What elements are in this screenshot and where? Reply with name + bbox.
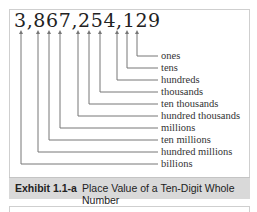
place-label-hundreds: hundreds	[161, 74, 200, 85]
place-label-tens: tens	[161, 62, 178, 73]
caption-title: Place Value of a Ten-Digit Whole Number	[82, 182, 250, 206]
place-label-billions: billions	[161, 158, 193, 169]
place-label-hundred-thousands: hundred thousands	[161, 110, 240, 121]
place-label-ten-millions: ten millions	[161, 134, 211, 145]
next-section-border	[9, 206, 250, 212]
exhibit-caption: Exhibit 1.1-a Place Value of a Ten-Digit…	[9, 177, 250, 199]
place-label-hundred-millions: hundred millions	[161, 146, 232, 157]
place-label-millions: millions	[161, 122, 195, 133]
caption-id: Exhibit 1.1-a	[15, 182, 77, 194]
place-label-ones: ones	[161, 50, 180, 61]
place-label-ten-thousands: ten thousands	[161, 98, 218, 109]
place-label-thousands: thousands	[161, 86, 203, 97]
